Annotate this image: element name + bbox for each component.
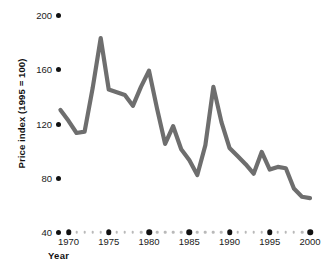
- chart-container: Price index (1995 = 100) Year 2001601208…: [0, 0, 333, 278]
- price-index-line: [60, 38, 310, 198]
- plot-area: [0, 0, 333, 278]
